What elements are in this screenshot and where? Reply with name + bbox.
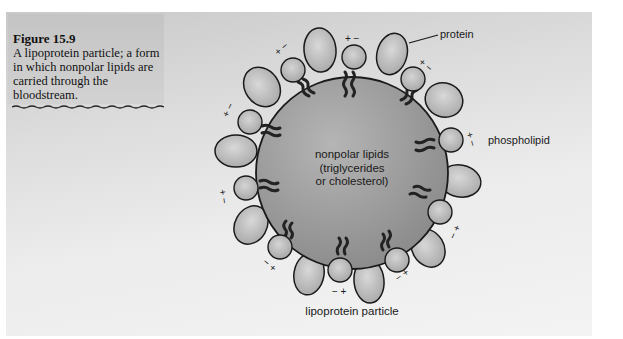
svg-text:− +: − + xyxy=(217,188,230,204)
lipoprotein-particle-label: lipoprotein particle xyxy=(305,305,398,317)
protein-leader-line xyxy=(409,35,438,43)
lipoprotein-diagram: + − + − + − + − + − − + + − − + − + − + … xyxy=(0,0,623,339)
svg-text:+ −: + − xyxy=(220,101,236,119)
svg-text:+ −: + − xyxy=(272,40,290,58)
svg-text:+ −: + − xyxy=(464,131,478,148)
svg-text:− +: − + xyxy=(332,286,347,297)
svg-text:+ −: + − xyxy=(447,223,463,241)
core-label-line1: nonpolar lipids xyxy=(315,148,389,160)
svg-text:+ −: + − xyxy=(345,33,360,44)
core-label-line3: or cholesterol) xyxy=(316,175,389,187)
protein-label: protein xyxy=(440,28,474,40)
core-label-line2: (triglycerides xyxy=(319,162,384,174)
phospholipid-label: phospholipid xyxy=(488,134,550,146)
